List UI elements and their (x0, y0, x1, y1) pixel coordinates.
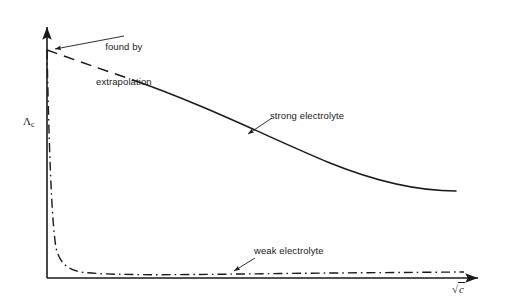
x-axis-label-variable: c (458, 282, 465, 295)
y-axis-label-symbol: Λ (23, 115, 31, 127)
x-axis-label: √c (452, 283, 465, 295)
annotation-extrapolation-line2: extrapolation (96, 76, 152, 88)
y-axis-label-subscript: c (31, 120, 35, 129)
strong-electrolyte-curve (133, 80, 456, 191)
annotation-weak-electrolyte: weak electrolyte (254, 245, 324, 257)
annotation-extrapolation: found by extrapolation (96, 17, 152, 112)
weak-electrolyte-leader-line (234, 258, 255, 271)
annotation-strong-electrolyte: strong electrolyte (270, 110, 344, 122)
conductivity-chart-figure: Λc √c found by extrapolation strong elec… (0, 0, 516, 306)
y-axis-label: Λc (23, 115, 35, 129)
annotation-extrapolation-line1: found by (96, 41, 152, 53)
chart-canvas (0, 0, 516, 306)
